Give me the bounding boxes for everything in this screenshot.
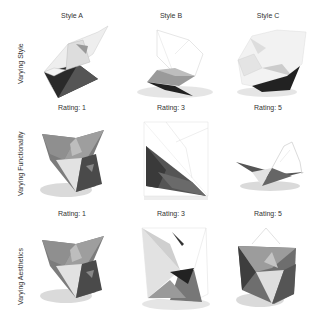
render-functionality-5 — [232, 132, 312, 196]
caption-aes-5: Rating: 5 — [228, 210, 308, 217]
row-label-style: Varying Style — [17, 43, 24, 84]
render-style-c — [232, 24, 312, 100]
render-aesthetics-5 — [232, 224, 312, 310]
row-label-aesthetics: Varying Aesthetics — [17, 248, 24, 305]
caption-style-a: Style A — [32, 12, 112, 19]
render-style-a — [38, 24, 118, 100]
caption-func-5: Rating: 5 — [228, 104, 308, 111]
render-aesthetics-1 — [36, 226, 116, 306]
render-style-b — [135, 24, 215, 100]
render-functionality-1 — [36, 120, 116, 200]
caption-aes-1: Rating: 1 — [32, 210, 112, 217]
caption-func-3: Rating: 3 — [131, 104, 211, 111]
caption-aes-3: Rating: 3 — [131, 210, 211, 217]
render-functionality-3 — [136, 118, 216, 202]
caption-style-c: Style C — [228, 12, 308, 19]
row-label-functionality: Varying Functionality — [17, 132, 24, 196]
caption-func-1: Rating: 1 — [32, 104, 112, 111]
caption-style-b: Style B — [131, 12, 211, 19]
render-aesthetics-3 — [136, 222, 216, 312]
